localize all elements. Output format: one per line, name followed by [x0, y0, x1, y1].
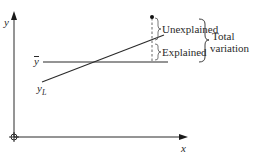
y-axis-arrow-icon	[11, 11, 17, 20]
unexplained-label: Unexplained	[162, 23, 218, 35]
y-bar-symbol: y	[34, 55, 39, 67]
x-axis-label: x	[181, 142, 186, 154]
regression-subscript: L	[42, 88, 46, 97]
mean-line-label: y	[34, 55, 39, 67]
y-axis-label: y	[4, 16, 9, 28]
explained-brace-icon	[155, 44, 161, 60]
explained-label: Explained	[162, 46, 207, 58]
x-axis-arrow-icon	[179, 134, 188, 140]
data-point	[150, 15, 154, 19]
regression-line-label: yL	[37, 82, 46, 99]
origin-marker-icon	[9, 132, 19, 142]
total-variation-label-line2: variation	[210, 42, 249, 54]
regression-line	[42, 35, 164, 82]
total-variation-label-line1: Total	[212, 30, 234, 42]
